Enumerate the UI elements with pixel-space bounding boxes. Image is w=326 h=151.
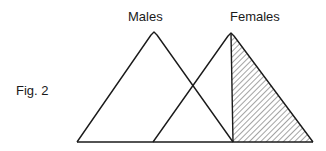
figure-caption: Fig. 2 bbox=[16, 83, 49, 98]
females-label: Females bbox=[230, 9, 280, 24]
males-triangle bbox=[77, 32, 233, 142]
males-label: Males bbox=[128, 9, 163, 24]
